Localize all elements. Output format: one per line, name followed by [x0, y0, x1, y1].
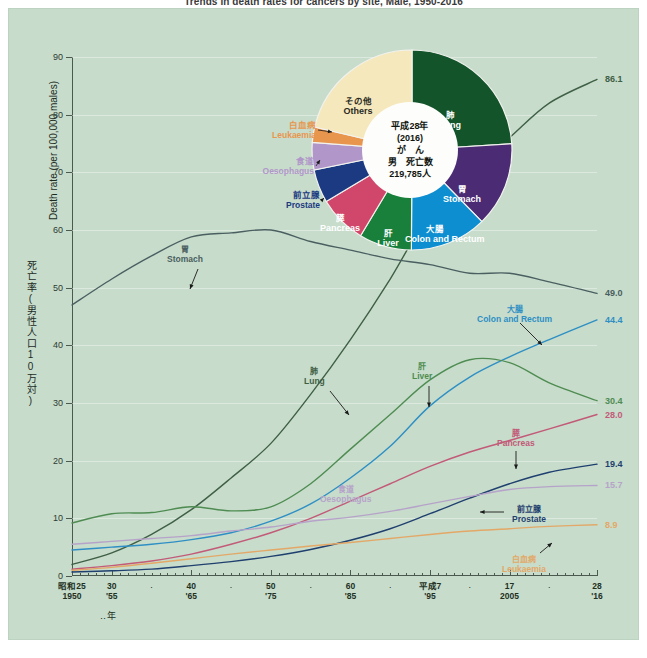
y-axis-tick-label: 0: [58, 571, 63, 581]
y-axis-tick-label: 90: [53, 52, 63, 62]
annotation-arrow-head: [427, 402, 431, 407]
series-end-value-label: 28.0: [605, 410, 623, 420]
pie-label-en: Lung: [420, 120, 480, 130]
pie-label-jp: 膵: [310, 213, 370, 223]
pie-label-en: Pancreas: [310, 223, 370, 233]
chart-root: Trends in death rates for cancers by sit…: [0, 0, 647, 658]
series-label-en: Liver: [412, 372, 432, 382]
x-axis-minor-marker: ·: [230, 582, 233, 592]
x-tick-label-en: '75: [265, 591, 276, 601]
pie-slice-label: 肺Lung: [420, 110, 480, 130]
pie-slice-callout-label: 前立腺Prostate: [258, 190, 320, 210]
chart-panel: 死亡率(男性人口10万対) Death rate (per 100,000 ma…: [8, 8, 639, 640]
y-axis-tick-label: 50: [53, 283, 63, 293]
pie-label-en: Prostate: [286, 200, 320, 210]
y-axis-tick-label: 20: [53, 456, 63, 466]
pie-slice-callout-label: 白血病Leukaemia: [254, 120, 316, 140]
pie-label-jp: その他: [328, 96, 388, 106]
pie-callout-arrow-head: [316, 160, 320, 164]
x-tick-label-en: 1950: [58, 591, 85, 601]
series-label-en: Stomach: [167, 255, 203, 265]
x-axis-minor-marker: ·: [309, 582, 312, 592]
x-tick-label-jp: 平成7: [419, 581, 442, 591]
x-tick-label-jp: 28: [591, 581, 602, 591]
series-end-value-label: 15.7: [605, 480, 623, 490]
x-tick-label-jp: 40: [186, 581, 197, 591]
pie-label-jp: 食道: [252, 156, 314, 166]
x-axis-tick-label: 50'75: [265, 581, 276, 601]
x-tick-label-en: '85: [345, 591, 356, 601]
pie-label-jp: 肺: [420, 110, 480, 120]
series-end-value-label: 44.4: [605, 315, 623, 325]
series-inline-label: 膵Pancreas: [497, 429, 535, 448]
x-axis-major-tick: [597, 570, 598, 576]
pie-label-jp: 胃: [432, 184, 492, 194]
series-label-en: Leukaemia: [502, 565, 546, 575]
x-tick-label-en: '55: [106, 591, 117, 601]
x-axis-minor-marker: ·: [389, 582, 392, 592]
x-axis-minor-marker: ·: [548, 582, 551, 592]
y-axis-title-jp: 死亡率(男性人口10万対): [24, 260, 36, 407]
series-label-en: Lung: [304, 377, 325, 387]
series-inline-label: 胃Stomach: [167, 245, 203, 264]
x-axis-title-jp: 年: [107, 611, 117, 621]
x-tick-label-en: '95: [419, 591, 442, 601]
x-axis-tick-label: 40'65: [186, 581, 197, 601]
series-inline-label: 肺Lung: [304, 367, 325, 386]
x-axis-title: ‥年: [100, 609, 117, 622]
x-tick-label-en: '16: [591, 591, 602, 601]
pie-label-en: Stomach: [432, 194, 492, 204]
pie-callout-arrow-head: [320, 198, 324, 202]
pie-label-jp: 前立腺: [258, 190, 320, 200]
chart-title: Trends in death rates for cancers by sit…: [0, 0, 647, 7]
pie-chart: 平成28年(2016)が ん男 死亡数219,785人 肺Lung胃Stomac…: [310, 48, 514, 252]
annotation-arrow-line: [520, 323, 542, 345]
series-end-value-label: 86.1: [605, 74, 623, 84]
x-tick-label-en: 2005: [500, 591, 519, 601]
series-label-en: Colon and Rectum: [477, 315, 552, 325]
y-axis-tick-label: 40: [53, 340, 63, 350]
series-inline-label: 肝Liver: [412, 362, 432, 381]
x-axis-tick-label: 28'16: [591, 581, 602, 601]
x-axis-minor-marker: ·: [468, 582, 471, 592]
y-axis-tick-label: 60: [53, 225, 63, 235]
pie-slice-label: 胃Stomach: [432, 184, 492, 204]
series-inline-label: 前立腺Prostate: [512, 505, 546, 524]
x-tick-label-jp: 50: [265, 581, 276, 591]
annotation-arrow-head: [480, 510, 485, 514]
pie-slice-label: その他Others: [328, 96, 388, 116]
x-tick-label-jp: 17: [500, 581, 519, 591]
pie-callout-arrow-head: [328, 129, 332, 133]
series-inline-label: 白血病Leukaemia: [502, 555, 546, 574]
x-tick-label-en: '65: [186, 591, 197, 601]
x-axis-tick-label: 30'55: [106, 581, 117, 601]
x-axis-tick-label: 172005: [500, 581, 519, 601]
x-tick-label-jp: 60: [345, 581, 356, 591]
y-axis-title-en: Death rate (per 100,000 males): [48, 81, 59, 220]
y-axis-tick-label: 10: [53, 513, 63, 523]
x-axis-tick-label: 60'85: [345, 581, 356, 601]
series-end-value-label: 8.9: [605, 520, 618, 530]
series-end-value-label: 19.4: [605, 459, 623, 469]
pie-slice-callout-label: 食道Oesophagus: [252, 156, 314, 176]
y-axis-tick-label: 30: [53, 398, 63, 408]
pie-slice-label: 膵Pancreas: [310, 213, 370, 233]
x-axis-tick-label: 昭和251950: [58, 581, 85, 601]
pie-label-en: Leukaemia: [272, 130, 316, 140]
pie-label-en: Liver: [358, 238, 418, 248]
y-axis-tick-label: 80: [53, 110, 63, 120]
y-axis-tick: [66, 576, 72, 577]
series-inline-label: 食道Oesophagus: [320, 485, 371, 504]
x-tick-label-jp: 昭和25: [58, 581, 85, 591]
pie-label-en: Oesophagus: [263, 166, 314, 176]
series-end-value-label: 30.4: [605, 396, 623, 406]
series-end-value-label: 49.0: [605, 288, 623, 298]
annotation-arrow-head: [514, 464, 518, 469]
x-tick-label-jp: 30: [106, 581, 117, 591]
y-axis-tick-label: 70: [53, 167, 63, 177]
series-inline-label: 大腸Colon and Rectum: [477, 305, 552, 324]
pie-label-jp: 白血病: [254, 120, 316, 130]
series-label-en: Pancreas: [497, 439, 535, 449]
series-label-en: Prostate: [512, 515, 546, 525]
x-axis-tick-label: 平成7'95: [419, 581, 442, 601]
